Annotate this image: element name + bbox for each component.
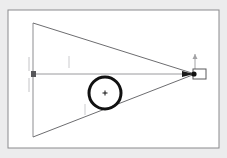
diagram-canvas [0,0,227,158]
optical-diagram-figure [0,0,227,158]
source-point-square-marker [31,71,36,77]
focus-point [191,71,196,76]
